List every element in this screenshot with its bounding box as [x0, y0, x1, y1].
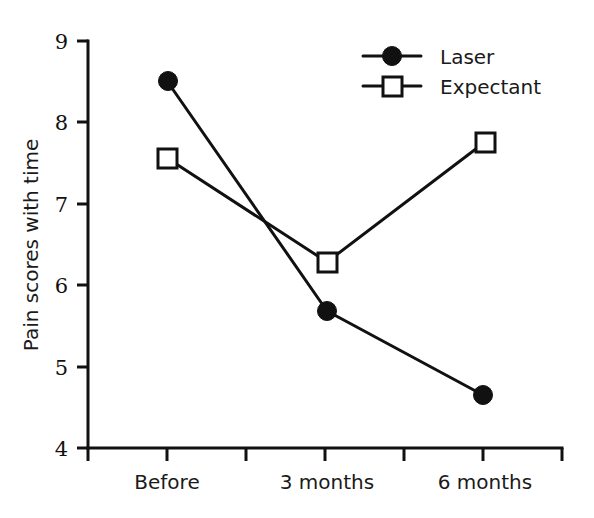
series-markers-laser: [159, 72, 493, 405]
x-tick-label-6-months: 6 months: [438, 470, 532, 494]
open-square-icon: [383, 77, 402, 96]
y-tick-label-9: 9: [55, 30, 68, 54]
data-point-expectant-6-months: [476, 133, 495, 152]
x-tick-label-before: Before: [134, 470, 199, 494]
legend-label-laser: Laser: [440, 45, 495, 69]
legend-item-expectant: Expectant: [363, 75, 541, 99]
data-point-laser-before: [159, 72, 178, 91]
chart-legend: Laser Expectant: [363, 45, 541, 99]
y-axis-title: Pain scores with time: [19, 139, 43, 352]
data-point-expectant-before: [158, 149, 177, 168]
y-tick-label-6: 6: [55, 274, 68, 298]
series-line-laser: [167, 81, 483, 395]
filled-circle-icon: [383, 47, 402, 66]
line-chart: 9 8 7 6 5 4 Before 3 months 6 months Pai…: [0, 0, 594, 518]
y-tick-label-4: 4: [55, 437, 68, 461]
data-point-expectant-3-months: [318, 253, 337, 272]
data-point-laser-3-months: [318, 302, 337, 321]
y-tick-label-7: 7: [55, 193, 68, 217]
y-axis-tick-labels: 9 8 7 6 5 4: [55, 30, 68, 461]
y-axis-ticks: [77, 41, 88, 448]
series-line-expectant: [167, 142, 485, 262]
y-tick-label-8: 8: [55, 111, 68, 135]
data-point-laser-6-months: [474, 386, 493, 405]
x-axis-tick-labels: Before 3 months 6 months: [134, 470, 532, 494]
chart-canvas: 9 8 7 6 5 4 Before 3 months 6 months Pai…: [0, 0, 594, 518]
y-tick-label-5: 5: [55, 356, 68, 380]
x-axis-ticks: [88, 448, 562, 461]
legend-label-expectant: Expectant: [440, 75, 541, 99]
legend-item-laser: Laser: [363, 45, 495, 69]
series-markers-expectant: [158, 133, 495, 272]
x-tick-label-3-months: 3 months: [280, 470, 374, 494]
